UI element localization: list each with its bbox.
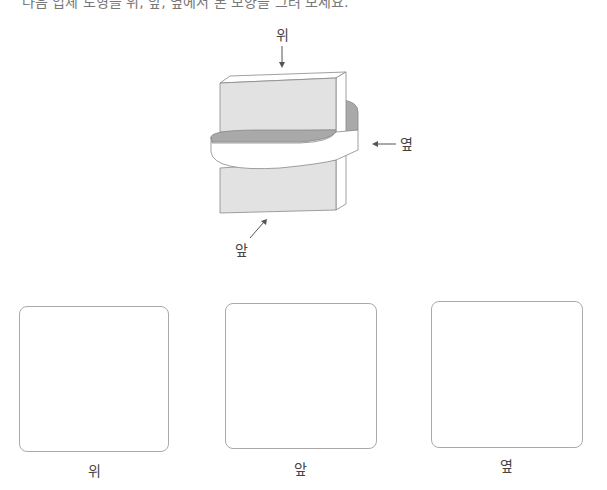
label-front: 앞 bbox=[235, 242, 248, 258]
answer-label-side: 옆 bbox=[476, 455, 536, 475]
answer-box-front[interactable] bbox=[225, 303, 377, 449]
label-side: 옆 bbox=[400, 136, 413, 152]
answer-label-top: 위 bbox=[64, 460, 124, 480]
answer-box-top[interactable] bbox=[19, 306, 169, 452]
answer-label-front: 앞 bbox=[270, 458, 330, 478]
answer-box-side[interactable] bbox=[431, 301, 583, 448]
label-top: 위 bbox=[276, 27, 289, 43]
solid-figure: 위 옆 앞 bbox=[0, 0, 607, 260]
